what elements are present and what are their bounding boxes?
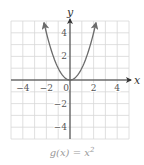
parabola-chart: xy−4−2024−4−224 (0, 0, 144, 145)
y-tick-label: −2 (54, 99, 67, 109)
y-axis-label: y (66, 6, 74, 19)
x-tick-label: −2 (40, 83, 53, 93)
y-tick-label: 4 (61, 28, 67, 38)
function-caption: g(x) = x2 (0, 146, 144, 158)
x-axis-label: x (134, 74, 141, 87)
x-tick-label: 2 (91, 83, 97, 93)
x-tick-label: 4 (114, 83, 120, 93)
y-tick-label: 2 (61, 51, 67, 61)
x-tick-label: 0 (63, 83, 69, 93)
caption-g: g(x) = x (50, 147, 90, 158)
y-tick-label: −4 (54, 122, 68, 132)
parabola-left-arrow (44, 23, 45, 26)
x-tick-label: −4 (16, 83, 30, 93)
caption-exponent: 2 (90, 146, 94, 154)
